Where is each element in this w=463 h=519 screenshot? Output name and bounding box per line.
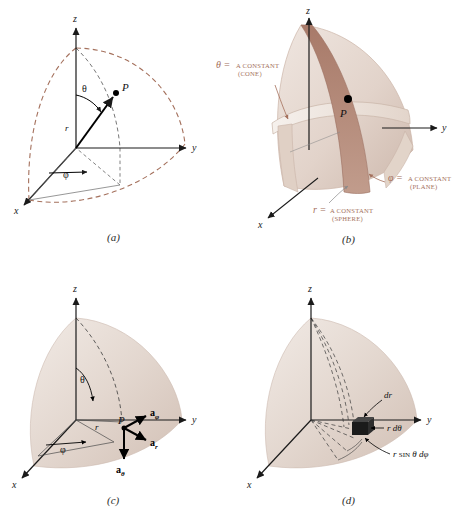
annotation-r-sub: (SPHERE) <box>332 215 363 223</box>
label-dr: dr <box>384 390 393 400</box>
annotation-r-symbol: r = <box>313 204 326 215</box>
phi-label-c: φ <box>60 444 66 455</box>
caption-a: (a) <box>107 231 120 244</box>
caption-b: (b) <box>342 233 355 246</box>
axis-label-y: y <box>426 414 432 425</box>
point-label-P: P <box>117 414 125 426</box>
axis-label-x: x <box>246 479 252 490</box>
annotation-phi-text: A CONSTANT <box>408 175 451 182</box>
plane-helper-a <box>29 148 120 200</box>
spherical-coordinates-figure: z y x P r θ φ (a) <box>0 0 463 519</box>
label-r-sin-theta-dphi: r SIN θ dφ <box>393 449 428 459</box>
theta-label-c: θ <box>80 374 85 385</box>
volume-element-d <box>352 417 374 435</box>
label-r-dtheta: r dθ <box>387 423 402 433</box>
point-marker-P <box>344 95 352 103</box>
radius-label-c: r <box>95 422 99 432</box>
annotation-theta-text: A CONSTANT <box>236 62 279 69</box>
octant-outline-a <box>29 48 185 202</box>
point-label-P: P <box>121 81 129 93</box>
axis-label-x: x <box>11 479 17 490</box>
theta-label-a: θ <box>82 83 87 94</box>
axis-label-y: y <box>191 414 197 425</box>
axis-label-x: x <box>13 205 19 216</box>
point-label-P: P <box>339 107 347 119</box>
axis-label-y: y <box>441 122 447 133</box>
axis-label-y: y <box>191 142 197 153</box>
panel-c: z y x θ φ r P <box>0 270 232 519</box>
theta-arc-a <box>76 95 101 112</box>
panel-b: z y x P θ = A CONSTANT (CONE) φ = A CONS… <box>232 0 463 260</box>
phi-label-a: φ <box>63 169 69 180</box>
panel-d: z y x dr r <box>232 270 463 519</box>
caption-c: (c) <box>107 494 120 507</box>
annotation-r-text: A CONSTANT <box>330 207 373 214</box>
caption-d: (d) <box>342 494 355 507</box>
axis-label-z: z <box>307 283 312 294</box>
radius-vector-a <box>76 90 119 148</box>
annotation-phi-constant: φ = A CONSTANT (PLANE) <box>369 172 451 191</box>
annotation-phi-sub: (PLANE) <box>410 183 437 191</box>
annotation-phi-symbol: φ = <box>388 172 403 183</box>
projection-lines-a <box>76 148 120 185</box>
axis-label-z: z <box>72 13 77 24</box>
axis-label-x: x <box>257 219 263 230</box>
unit-vector-a-theta: aθ <box>116 464 125 478</box>
panel-a: z y x P r θ φ (a) <box>0 0 232 260</box>
annotation-theta-symbol: θ = <box>216 59 230 70</box>
axis-label-z: z <box>72 283 77 294</box>
axis-label-z: z <box>305 5 310 16</box>
annotation-theta-sub: (CONE) <box>238 70 262 78</box>
radius-label-a: r <box>65 123 69 133</box>
